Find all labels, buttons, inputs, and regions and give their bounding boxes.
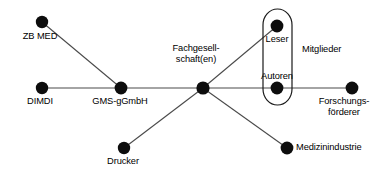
node-autoren[interactable] — [271, 82, 284, 95]
node-medizinindustrie[interactable] — [281, 142, 294, 155]
label-leser: Leser — [266, 34, 289, 45]
label-forschungsfoerderer: Forschungs- förderer — [319, 96, 370, 118]
label-mitglieder-group: Mitglieder — [302, 44, 341, 55]
node-leser[interactable] — [271, 20, 284, 33]
node-fachgesellschaften[interactable] — [196, 81, 209, 94]
label-drucker: Drucker — [107, 156, 139, 167]
node-zb-med[interactable] — [36, 16, 48, 28]
diagram-canvas: ZB MED DIMDI GMS-gGmbH Fachgesell- schaf… — [0, 0, 383, 176]
edge-fachgesellschaften-to-medizinindustrie — [203, 88, 287, 148]
edge-group — [42, 22, 352, 148]
label-fachgesellschaften: Fachgesell- schaft(en) — [173, 43, 220, 65]
node-drucker[interactable] — [118, 142, 130, 154]
node-forschungsfoerderer[interactable] — [346, 82, 359, 95]
label-autoren: Autoren — [261, 71, 293, 82]
node-dimdi[interactable] — [36, 82, 48, 94]
node-group — [36, 16, 359, 155]
node-gms-ggmbh[interactable] — [115, 82, 128, 95]
label-dimdi: DIMDI — [27, 96, 53, 107]
label-medizinindustrie: Medizinindustrie — [296, 142, 362, 153]
label-gms-ggmbh: GMS-gGmbH — [92, 96, 147, 107]
label-zb-med: ZB MED — [23, 31, 58, 42]
